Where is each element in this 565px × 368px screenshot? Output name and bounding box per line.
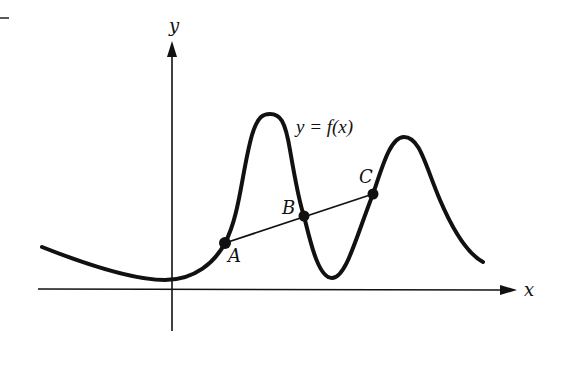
point-c-dot <box>368 189 379 200</box>
x-axis-arrow-icon <box>500 285 517 295</box>
y-axis-label: y <box>168 15 180 36</box>
function-curve <box>42 114 483 280</box>
y-axis-arrow-icon <box>167 41 177 57</box>
x-axis <box>38 285 517 295</box>
y-axis <box>167 41 177 331</box>
curve-equation-label: y = f(x) <box>294 116 353 138</box>
point-c-label: C <box>359 166 373 187</box>
point-a-label: A <box>226 245 241 266</box>
point-b-dot <box>299 211 310 222</box>
point-b-label: B <box>281 197 295 218</box>
function-graph: y x A B C y = f(x) <box>0 0 565 368</box>
x-axis-label: x <box>524 279 534 300</box>
